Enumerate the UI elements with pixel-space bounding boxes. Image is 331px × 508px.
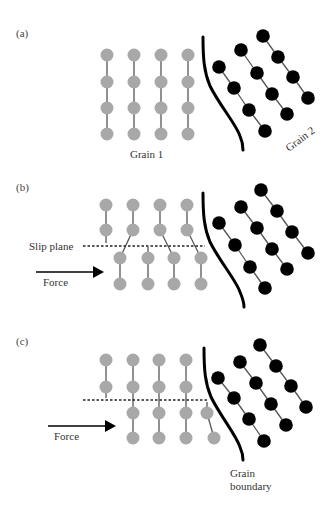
grain-1-atom: [101, 49, 114, 62]
grain-2-atom: [270, 204, 284, 218]
grain-boundary-label-line1: Grain: [230, 467, 256, 479]
grain-2-atom: [233, 355, 247, 369]
grain-1-atom: [153, 407, 166, 420]
grain-1-atom: [154, 199, 167, 212]
grain-1-atom: [155, 49, 168, 62]
grain-2-lattice: [212, 183, 315, 295]
grain-2-atom: [211, 371, 225, 385]
grain-2-atom: [257, 434, 271, 448]
grain-1-atom: [127, 224, 140, 237]
grain-2-label: Grain 2: [283, 124, 317, 154]
grain-1-atom: [182, 128, 195, 141]
grain-1-atom: [127, 199, 140, 212]
slip-plane-label: Slip plane: [29, 240, 73, 252]
grain-1-atom: [181, 224, 194, 237]
grain-2-atom: [265, 242, 279, 256]
grain-1-atom: [128, 76, 141, 89]
grain-1-atom: [127, 407, 140, 420]
grain-2-atom: [279, 418, 293, 432]
panel-c: (c) Force Grain boundary: [16, 335, 313, 492]
grain-1-atom: [201, 407, 214, 420]
panel-c-label: (c): [16, 335, 29, 348]
grain-2-atom: [234, 200, 248, 214]
grain-2-atom: [250, 66, 264, 80]
grain-2-atom: [256, 29, 270, 43]
grain-1-atom: [100, 199, 113, 212]
grain-1-atom: [101, 76, 114, 89]
grain-1-atom: [155, 102, 168, 115]
grain-2-atom: [301, 91, 315, 105]
grain-2-atom: [254, 183, 268, 197]
grain-2-atom: [280, 262, 294, 276]
grain-1-atom: [181, 199, 194, 212]
grain-1-lattice: [100, 199, 208, 291]
grain-2-atom: [286, 70, 300, 84]
grain-2-atom: [228, 238, 242, 252]
grain-1-atom: [153, 354, 166, 367]
grain-2-atom: [280, 107, 294, 121]
grain-2-atom: [212, 216, 226, 230]
force-label: Force: [43, 276, 68, 288]
grain-2-atom: [264, 397, 278, 411]
grain-1-atom: [155, 76, 168, 89]
grain-1-atom: [195, 278, 208, 291]
grain-1-atom: [100, 354, 113, 367]
grain-2-atom: [299, 400, 313, 414]
grain-1-atom: [180, 354, 193, 367]
grain-1-atom: [127, 354, 140, 367]
grain-1-atom: [182, 102, 195, 115]
grain-2-atom: [301, 246, 315, 260]
grain-1-atom: [101, 128, 114, 141]
grain-2-atom: [250, 221, 264, 235]
panel-b-label: (b): [16, 181, 29, 194]
grain-1-lattice: [101, 49, 195, 141]
grain-2-atom: [271, 50, 285, 64]
grain-2-atom: [285, 225, 299, 239]
grain-1-atom: [153, 381, 166, 394]
grain-2-atom: [258, 281, 272, 295]
grain-1-atom: [153, 432, 166, 445]
grain-1-atom: [195, 252, 208, 265]
grain-1-atom: [100, 381, 113, 394]
grain-1-atom: [128, 102, 141, 115]
grain-2-atom: [253, 338, 267, 352]
grain-2-atom: [265, 87, 279, 101]
grain-1-bonds: [106, 205, 201, 284]
grain-1-atom: [180, 407, 193, 420]
grain-1-atom: [127, 432, 140, 445]
panel-a-label: (a): [16, 27, 29, 40]
grain-1-atom: [182, 76, 195, 89]
grain-boundary-slip-diagram: (a) Grain 1 Grain 2 (b) Slip plane Force…: [0, 0, 331, 508]
grain-2-atom: [227, 81, 241, 95]
grain-1-atom: [127, 381, 140, 394]
grain-2-atom: [234, 43, 248, 57]
grain-1-atom: [180, 381, 193, 394]
grain-1-atom: [142, 278, 155, 291]
panel-b: (b) Slip plane Force: [16, 181, 315, 307]
grain-1-atom: [100, 224, 113, 237]
grain-1-atom: [154, 224, 167, 237]
grain-1-lattice: [100, 354, 221, 445]
grain-2-lattice: [212, 29, 315, 138]
grain-2-atom: [284, 379, 298, 393]
grain-1-atom: [155, 128, 168, 141]
grain-2-atom: [243, 260, 257, 274]
grain-1-label: Grain 1: [130, 148, 163, 160]
grain-1-atom: [142, 252, 155, 265]
grain-1-atom: [114, 278, 127, 291]
grain-1-atom: [128, 128, 141, 141]
grain-1-atom: [101, 102, 114, 115]
grain-2-atom: [249, 376, 263, 390]
grain-2-atom: [258, 124, 272, 138]
grain-1-atom: [168, 278, 181, 291]
force-label: Force: [54, 430, 79, 442]
panel-a: (a) Grain 1 Grain 2: [16, 27, 317, 160]
grain-2-atom: [269, 359, 283, 373]
grain-2-atom: [242, 412, 256, 426]
grain-2-atom: [242, 103, 256, 117]
grain-1-atom: [114, 252, 127, 265]
grain-2-atom: [212, 60, 226, 74]
grain-2-lattice: [211, 338, 313, 448]
grain-1-atom: [180, 432, 193, 445]
grain-1-atom: [208, 432, 221, 445]
